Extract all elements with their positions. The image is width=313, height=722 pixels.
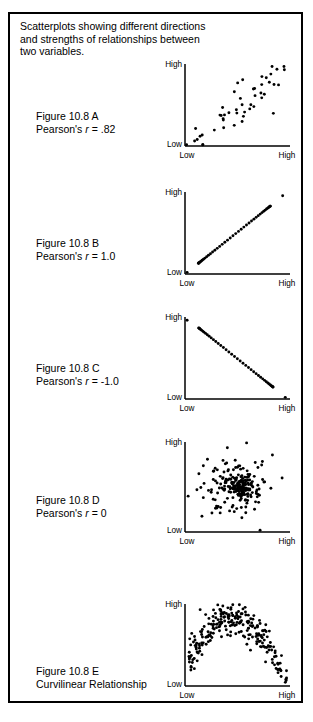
panel-e-title: Figure 10.8 E — [36, 665, 147, 678]
y-axis-low-label: Low — [167, 526, 182, 535]
y-axis-low-label: Low — [167, 140, 182, 149]
panel-d-correlation: Pearson's r = 0 — [36, 507, 107, 520]
x-axis-high-label: High — [279, 151, 296, 160]
scatter-points — [185, 65, 286, 146]
panel-b-title: Figure 10.8 B — [36, 237, 115, 250]
y-axis-high-label: High — [165, 188, 182, 197]
x-axis-low-label: Low — [179, 404, 194, 413]
plot-axes — [185, 64, 290, 146]
panel-d-caption: Figure 10.8 DPearson's r = 0 — [36, 494, 107, 519]
figure-border: Scatterplots showing different direction… — [8, 12, 303, 703]
panel-d-title: Figure 10.8 D — [36, 494, 107, 507]
x-axis-low-label: Low — [179, 537, 194, 546]
y-axis-low-label: Low — [167, 680, 182, 689]
scatter-points — [188, 603, 288, 683]
panel-c-caption: Figure 10.8 CPearson's r = -1.0 — [36, 362, 119, 387]
y-axis-high-label: High — [165, 60, 182, 69]
scatter-points — [186, 194, 284, 274]
x-axis-high-label: High — [279, 404, 296, 413]
panel-e-caption: Figure 10.8 ECurvilinear Relationship — [36, 665, 147, 690]
panel-c-correlation: Pearson's r = -1.0 — [36, 375, 119, 388]
x-axis-high-label: High — [279, 537, 296, 546]
panel-a-correlation: Pearson's r = .82 — [36, 123, 115, 136]
x-axis-high-label: High — [279, 279, 296, 288]
panel-e-correlation: Curvilinear Relationship — [36, 678, 147, 691]
x-axis-low-label: Low — [179, 279, 194, 288]
panel-b-caption: Figure 10.8 BPearson's r = 1.0 — [36, 237, 115, 262]
y-axis-high-label: High — [165, 313, 182, 322]
y-axis-high-label: High — [165, 600, 182, 609]
scatterplot-c: HighLowLowHigh — [158, 306, 294, 418]
scatterplot-d: HighLowLowHigh — [158, 431, 294, 551]
panel-a-caption: Figure 10.8 APearson's r = .82 — [36, 110, 115, 135]
scatterplot-b: HighLowLowHigh — [158, 181, 294, 293]
x-axis-high-label: High — [279, 691, 296, 700]
panel-c-title: Figure 10.8 C — [36, 362, 119, 375]
y-axis-low-label: Low — [167, 268, 182, 277]
scatter-points — [187, 441, 284, 531]
x-axis-low-label: Low — [179, 151, 194, 160]
panel-a-title: Figure 10.8 A — [36, 110, 115, 123]
y-axis-high-label: High — [165, 438, 182, 447]
y-axis-low-label: Low — [167, 393, 182, 402]
scatterplot-a: HighLowLowHigh — [158, 53, 294, 165]
panel-b-correlation: Pearson's r = 1.0 — [36, 250, 115, 263]
scatter-points — [186, 319, 287, 399]
scatterplot-e: HighLowLowHigh — [158, 593, 294, 705]
x-axis-low-label: Low — [179, 691, 194, 700]
